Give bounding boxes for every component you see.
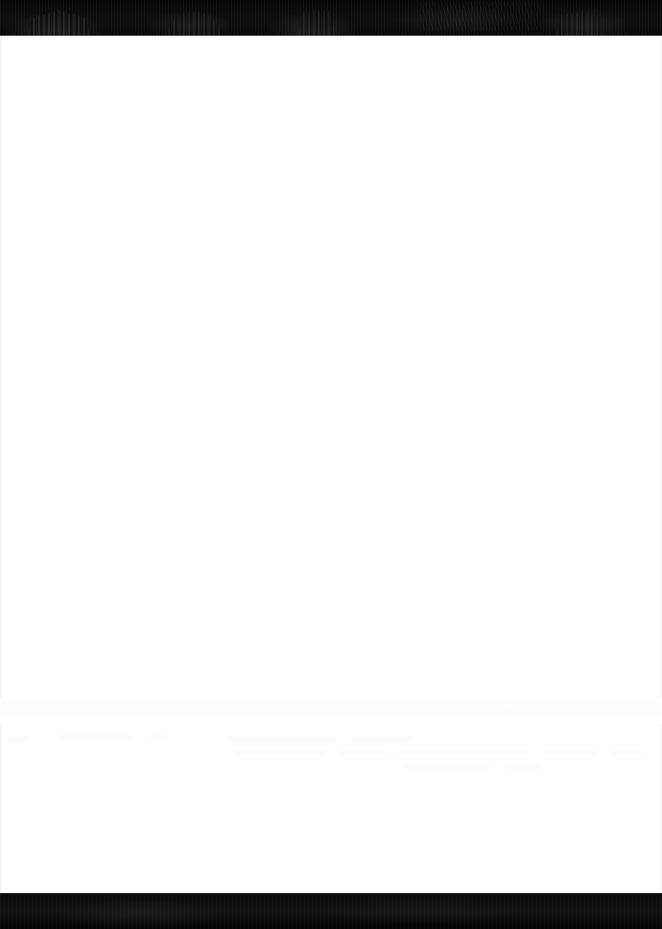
faded-content-band xyxy=(0,698,662,724)
document-page xyxy=(0,0,662,929)
faded-text-trace xyxy=(504,764,542,769)
header-banner xyxy=(0,0,662,36)
faded-text-trace xyxy=(150,735,168,740)
faint-texture-cluster xyxy=(420,2,540,30)
footer-banner xyxy=(0,893,662,929)
faded-text-trace xyxy=(544,750,596,755)
faded-text-trace xyxy=(8,736,30,741)
faded-text-trace xyxy=(58,735,132,740)
faded-text-trace xyxy=(228,736,336,741)
faded-text-trace xyxy=(234,750,326,755)
footer-top-divider xyxy=(0,893,662,894)
document-body xyxy=(0,36,662,893)
left-margin-strip xyxy=(0,36,3,893)
faded-text-trace xyxy=(398,750,528,755)
faded-text-trace xyxy=(404,764,490,769)
footer-texture-overlay xyxy=(0,893,662,929)
faded-text-trace xyxy=(352,736,414,741)
faded-text-trace xyxy=(340,750,386,755)
faded-text-trace xyxy=(612,750,642,755)
